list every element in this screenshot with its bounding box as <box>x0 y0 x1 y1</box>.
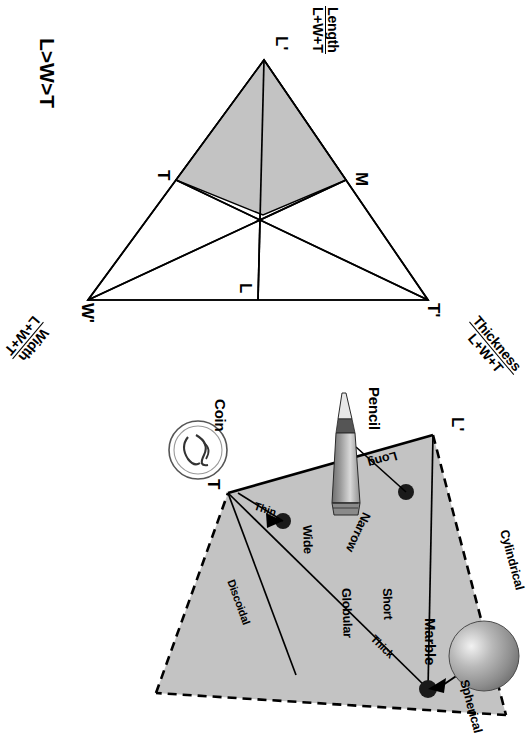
axis-caption-length: Length L+W+T <box>310 6 340 54</box>
pencil-icon <box>332 393 360 515</box>
zone-label-short: Short <box>380 588 394 620</box>
shape-vertex-label-T: T <box>205 479 222 489</box>
zone-label-wide: Wide <box>300 525 314 554</box>
shape-vector-art <box>0 375 528 750</box>
figure-stage: L>W>T L' Length L+W+T T' Thickness L+W+T… <box>0 0 528 750</box>
zone-label-globular: Globular <box>339 588 353 638</box>
vertex-label-W-prime: W' <box>79 303 96 323</box>
midpoint-label-T: T <box>155 170 172 180</box>
midpoint-label-L: L <box>237 283 254 293</box>
vertex-label-L-prime: L' <box>273 36 290 50</box>
midpoint-label-M: M <box>353 172 370 186</box>
ternary-diagram-panel: L>W>T L' Length L+W+T T' Thickness L+W+T… <box>0 0 528 375</box>
vertex-label-T-prime: T' <box>425 303 442 317</box>
shape-classes-panel: L' T Pencil Marble Coin Cylindrical Sphe… <box>0 375 528 750</box>
callout-label-pencil: Pencil <box>367 387 382 430</box>
axis-caption-length-denominator: L+W+T <box>310 6 324 54</box>
callout-label-coin: Coin <box>213 399 228 432</box>
ternary-title: L>W>T <box>37 38 58 108</box>
callout-label-marble: Marble <box>423 618 438 665</box>
median-from-W-overlay <box>88 180 346 300</box>
shape-vertex-label-L-prime: L' <box>449 417 466 431</box>
axis-caption-length-numerator: Length <box>325 6 340 54</box>
